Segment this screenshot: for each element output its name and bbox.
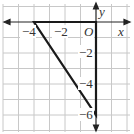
graph-svg: −4 −2 O x y −2 −4 −6 [0,0,134,134]
x-axis-label: x [117,24,124,39]
origin-label: O [84,24,94,39]
y-axis-up-arrow-icon [94,3,99,9]
x-tick-label-neg2: −2 [54,24,68,39]
y-axis-label: y [97,4,105,19]
x-axis-right-arrow-icon [124,20,130,25]
x-axis-left-arrow-icon [4,20,10,25]
y-tick-label-neg4: −4 [79,76,93,91]
coordinate-plane: −4 −2 O x y −2 −4 −6 [0,0,134,134]
x-tick-label-neg4: −4 [22,24,36,39]
y-tick-label-neg2: −2 [79,45,93,60]
y-tick-label-neg6: −6 [79,107,93,122]
